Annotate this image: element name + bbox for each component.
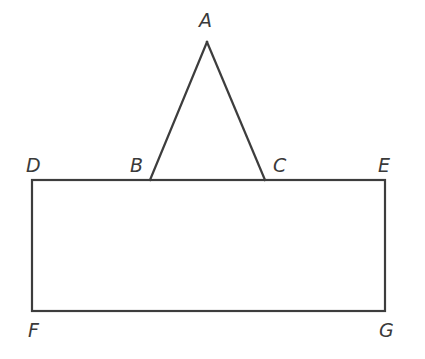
label-f: F [28,319,40,341]
segment-ac [207,42,265,180]
segment-ab [150,42,207,180]
label-a: A [197,9,212,31]
geometry-diagram: A B C D E F G [0,0,425,359]
rectangle-defg [32,180,385,311]
label-c: C [273,154,287,176]
label-g: G [379,319,394,341]
label-d: D [26,154,41,176]
label-e: E [378,154,390,176]
label-b: B [130,154,143,176]
